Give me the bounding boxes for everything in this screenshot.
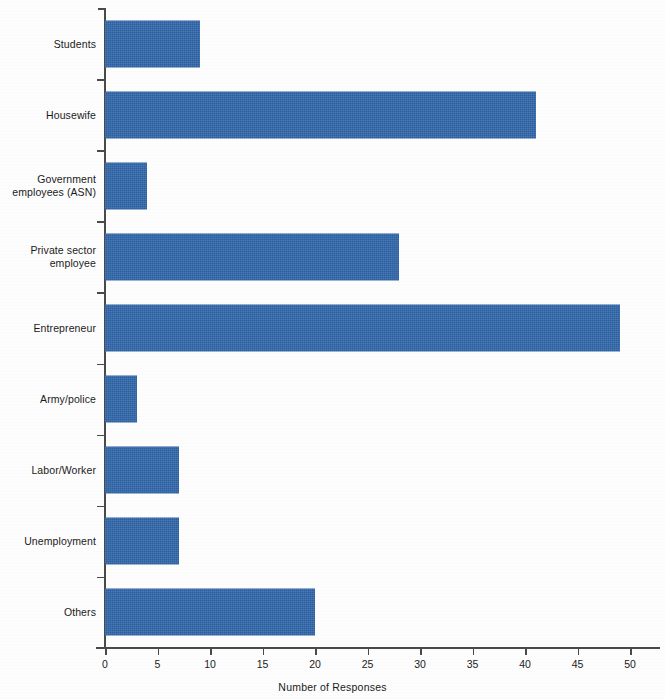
bar [105,233,399,280]
x-axis-tick-label: 5 [138,658,178,670]
bar-row: Unemployment [0,506,665,577]
category-label: Entrepreneur [0,321,96,334]
x-axis-tick [368,648,370,655]
category-label: Governmentemployees (ASN) [0,173,96,199]
x-axis-tick-label: 30 [400,658,440,670]
x-axis-tick-label: 0 [85,658,125,670]
x-axis-tick [315,648,317,655]
bar [105,304,620,351]
x-axis-tick-label: 50 [610,658,650,670]
x-axis-tick [105,648,107,655]
bar-row: Students [0,8,665,79]
bar [105,518,179,565]
x-axis-tick [525,648,527,655]
x-axis-tick [263,648,265,655]
bar-row: Private sectoremployee [0,221,665,292]
x-axis-tick-label: 20 [295,658,335,670]
bar-chart-figure: StudentsHousewifeGovernmentemployees (AS… [0,0,665,699]
bar-row: Entrepreneur [0,292,665,363]
category-label: Private sectoremployee [0,244,96,270]
bar [105,589,315,636]
x-axis-tick [210,648,212,655]
x-axis-tick [158,648,160,655]
bar [105,20,200,67]
bar-row: Housewife [0,79,665,150]
x-axis-tick-label: 45 [558,658,598,670]
x-axis-tick [420,648,422,655]
bar [105,376,137,423]
bar-row: Others [0,577,665,648]
x-axis-tick-label: 25 [348,658,388,670]
x-axis-title: Number of Responses [0,681,665,693]
x-axis-tick-label: 15 [243,658,283,670]
category-label: Unemployment [0,535,96,548]
x-axis-tick [630,648,632,655]
bar-row: Army/police [0,364,665,435]
x-axis-tick-label: 40 [505,658,545,670]
category-label: Housewife [0,108,96,121]
bar [105,447,179,494]
x-axis-tick [578,648,580,655]
category-label: Army/police [0,393,96,406]
x-axis-tick-label: 35 [453,658,493,670]
category-label: Others [0,606,96,619]
category-label: Students [0,37,96,50]
bar-row: Governmentemployees (ASN) [0,150,665,221]
bar [105,91,536,138]
bar [105,162,147,209]
x-axis-tick-label: 10 [190,658,230,670]
category-label: Labor/Worker [0,464,96,477]
x-axis-tick [473,648,475,655]
bar-row: Labor/Worker [0,435,665,506]
